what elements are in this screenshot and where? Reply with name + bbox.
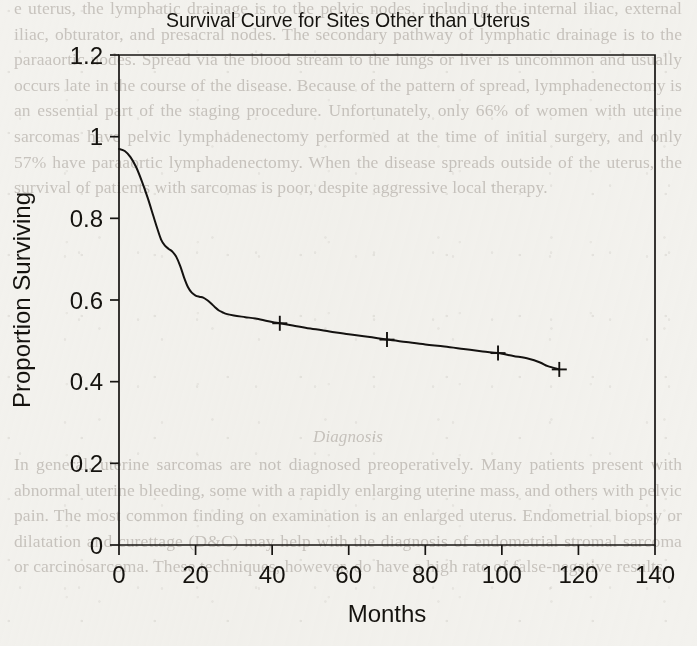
y-tick-label: 1.2 xyxy=(70,42,103,69)
x-tick-label: 60 xyxy=(335,561,362,588)
y-axis-tick-labels: 00.20.40.60.811.2 xyxy=(70,42,103,559)
y-axis-title: Proportion Surviving xyxy=(8,192,35,408)
chart-title: Survival Curve for Sites Other than Uter… xyxy=(166,9,530,31)
x-axis-ticks xyxy=(119,545,655,555)
x-tick-label: 80 xyxy=(412,561,439,588)
y-tick-label: 0.2 xyxy=(70,450,103,477)
x-tick-label: 140 xyxy=(635,561,675,588)
x-tick-label: 0 xyxy=(112,561,125,588)
y-axis-ticks xyxy=(110,55,119,545)
x-axis-tick-labels: 020406080100120140 xyxy=(112,561,675,588)
chart-canvas: Survival Curve for Sites Other than Uter… xyxy=(0,0,697,646)
y-tick-label: 1 xyxy=(90,123,103,150)
y-tick-label: 0.8 xyxy=(70,205,103,232)
x-tick-label: 100 xyxy=(482,561,522,588)
plot-frame xyxy=(119,55,655,545)
y-tick-label: 0 xyxy=(90,532,103,559)
survival-curve-line xyxy=(119,149,559,370)
censor-marks-group xyxy=(272,316,566,377)
x-tick-label: 120 xyxy=(558,561,598,588)
x-axis-title: Months xyxy=(348,600,427,627)
x-tick-label: 20 xyxy=(182,561,209,588)
y-tick-label: 0.4 xyxy=(70,368,103,395)
x-tick-label: 40 xyxy=(259,561,286,588)
survival-curve-figure: Survival Curve for Sites Other than Uter… xyxy=(0,0,697,646)
y-tick-label: 0.6 xyxy=(70,287,103,314)
